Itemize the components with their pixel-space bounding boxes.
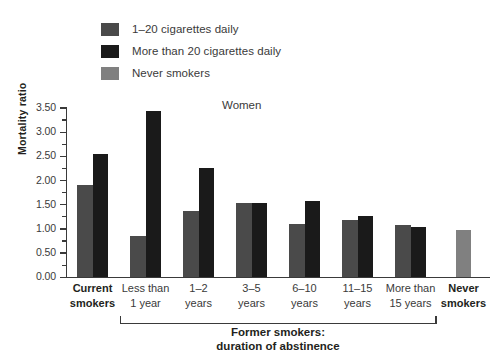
bracket-tick-right bbox=[435, 316, 436, 324]
x-axis-category-label-line1: Never bbox=[430, 281, 491, 296]
chart-bar bbox=[411, 227, 427, 277]
chart-bar bbox=[252, 203, 268, 277]
chart-bars bbox=[0, 0, 491, 277]
chart-bar bbox=[305, 201, 321, 277]
chart-plot-area: Women Mortality ratio 0.000.501.001.502.… bbox=[0, 0, 491, 357]
chart-bar bbox=[395, 225, 411, 277]
chart-bar bbox=[236, 203, 252, 277]
chart-bar bbox=[289, 224, 305, 278]
chart-bar bbox=[146, 111, 162, 277]
bracket-horizontal-line bbox=[120, 323, 437, 324]
chart-bar bbox=[456, 230, 472, 277]
bracket-caption-line1: Former smokers: bbox=[120, 325, 437, 339]
chart-bar bbox=[130, 236, 146, 277]
x-axis-category-label: Neversmokers bbox=[430, 281, 491, 310]
chart-bar bbox=[93, 154, 109, 277]
bracket-caption: Former smokers: duration of abstinence bbox=[120, 325, 437, 353]
chart-bar bbox=[342, 220, 358, 277]
chart-bar bbox=[358, 216, 374, 277]
bracket-caption-line2: duration of abstinence bbox=[120, 339, 437, 353]
chart-bar bbox=[183, 211, 199, 278]
chart-bar bbox=[199, 168, 215, 278]
chart-bar bbox=[77, 185, 93, 277]
former-smokers-bracket bbox=[120, 316, 437, 324]
x-axis-category-label-line2: smokers bbox=[430, 296, 491, 311]
